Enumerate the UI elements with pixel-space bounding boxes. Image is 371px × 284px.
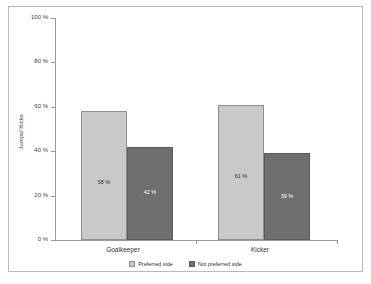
y-tick-label: 100 % [31, 13, 48, 22]
bar-data-label: 58 % [82, 179, 126, 185]
legend-label: Not preferred side [198, 261, 242, 267]
y-tick-60: 60 % [0, 107, 55, 108]
y-tick-label: 0 % [38, 235, 48, 244]
legend-item-not-preferred[interactable]: Not preferred side [189, 261, 242, 267]
y-tick-0: 0 % [0, 240, 55, 241]
y-axis-title: Jumps/ Kicks [16, 92, 26, 172]
bar-goalkeeper-preferred[interactable]: 58 % [81, 111, 127, 240]
bar-goalkeeper-not-preferred[interactable]: 42 % [127, 147, 173, 240]
y-tick-mark [51, 240, 55, 241]
bar-data-label: 39 % [265, 193, 309, 199]
y-tick-20: 20 % [0, 196, 55, 197]
y-tick-label: 60 % [34, 102, 48, 111]
plot-area: 58 % 42 % 61 % 39 % [55, 18, 338, 240]
y-tick-80: 80 % [0, 62, 55, 63]
y-tick-label: 80 % [34, 57, 48, 66]
x-category-kicker: Kicker [215, 246, 305, 253]
chart-legend: Preferred side Not preferred side [0, 261, 371, 267]
y-tick-100: 100 % [0, 18, 55, 19]
legend-swatch-icon [189, 261, 195, 267]
legend-swatch-icon [129, 261, 135, 267]
y-tick-label: 20 % [34, 191, 48, 200]
x-tick-mark-middle [196, 240, 197, 244]
x-tick-mark-end [337, 240, 338, 244]
y-tick-label: 40 % [34, 146, 48, 155]
bar-data-label: 42 % [128, 189, 172, 195]
y-tick-40: 40 % [0, 151, 55, 152]
chart-figure: 100 % 80 % 60 % 40 % 20 % 0 % Jumps/ Kic… [0, 0, 371, 284]
bar-kicker-preferred[interactable]: 61 % [218, 105, 264, 240]
x-category-goalkeeper: Goalkeeper [78, 246, 168, 253]
legend-item-preferred[interactable]: Preferred side [129, 261, 173, 267]
legend-label: Preferred side [138, 261, 173, 267]
y-axis-title-text: Jumps/ Kicks [18, 114, 24, 149]
bar-kicker-not-preferred[interactable]: 39 % [264, 153, 310, 240]
bar-data-label: 61 % [219, 173, 263, 179]
